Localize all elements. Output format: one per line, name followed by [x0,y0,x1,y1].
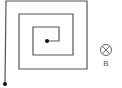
outer-terminal-dot [3,82,7,86]
field-into-page-icon [101,45,112,56]
field-label: B [103,59,108,68]
diagram-canvas: B [0,0,122,88]
inner-terminal-dot [45,39,49,43]
